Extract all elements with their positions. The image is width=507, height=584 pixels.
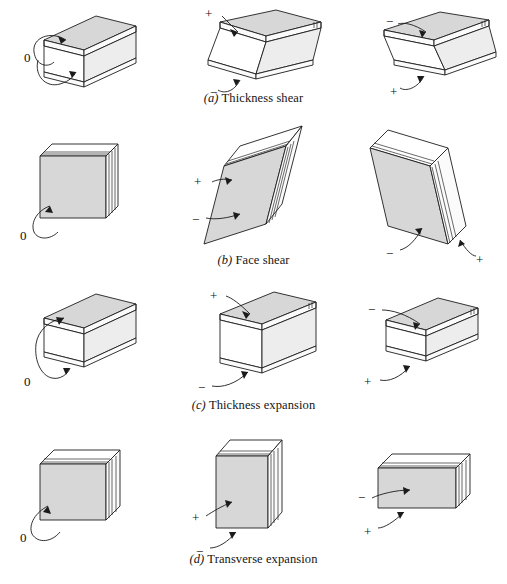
caption-text: Transverse expansion bbox=[207, 552, 317, 566]
sign-label-zero: 0 bbox=[24, 50, 31, 65]
sign-label-minus: − bbox=[368, 302, 375, 317]
caption-index: (a) bbox=[204, 91, 219, 105]
sign-label-plus: + bbox=[364, 374, 371, 389]
row-thickness-shear: 0 + − bbox=[0, 0, 507, 118]
caption-text: Thickness expansion bbox=[209, 398, 315, 412]
caption-text: Thickness shear bbox=[222, 91, 304, 105]
sign-label-zero: 0 bbox=[20, 228, 27, 243]
sign-label-minus: − bbox=[358, 490, 365, 505]
row-face-shear: 0 + − bbox=[0, 118, 507, 286]
row-transverse-expansion: 0 + − bbox=[0, 428, 507, 584]
caption-text: Face shear bbox=[236, 253, 290, 267]
sign-label-minus: − bbox=[192, 212, 199, 227]
sign-label-plus: + bbox=[194, 174, 201, 189]
caption-index: (d) bbox=[189, 552, 204, 566]
sign-label-plus: + bbox=[210, 288, 217, 303]
piezoelectric-modes-figure: 0 + − bbox=[0, 0, 507, 584]
caption-index: (c) bbox=[192, 398, 206, 412]
caption-thickness-expansion: (c) Thickness expansion bbox=[0, 398, 507, 413]
caption-transverse-expansion: (d) Transverse expansion bbox=[0, 552, 507, 567]
sign-label-plus: + bbox=[192, 510, 199, 525]
sign-label-minus: − bbox=[386, 14, 393, 29]
row-thickness-expansion: 0 + − bbox=[0, 286, 507, 428]
caption-face-shear: (b) Face shear bbox=[0, 253, 507, 268]
sign-label-minus: − bbox=[198, 380, 205, 395]
caption-thickness-shear: (a) Thickness shear bbox=[0, 91, 507, 106]
caption-index: (b) bbox=[217, 253, 232, 267]
sign-label-plus: + bbox=[364, 524, 371, 539]
sign-label-zero: 0 bbox=[20, 530, 27, 545]
sign-label-plus: + bbox=[205, 6, 212, 21]
sign-label-zero: 0 bbox=[24, 374, 31, 389]
